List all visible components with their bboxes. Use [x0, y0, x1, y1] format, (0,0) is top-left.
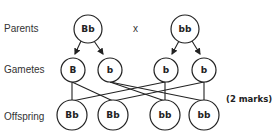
svg-text:b: b	[201, 65, 208, 75]
row-label-gametes: Gametes	[4, 64, 45, 75]
offspring-node-3: bb	[150, 100, 180, 130]
parent-node-2: bb	[171, 15, 199, 43]
svg-text:bb: bb	[198, 110, 211, 120]
gamete-node-1: B	[61, 58, 85, 82]
svg-text:bb: bb	[179, 24, 192, 34]
svg-text:Bb: Bb	[65, 110, 79, 120]
gamete-node-2: b	[98, 58, 122, 82]
cross-symbol: x	[133, 23, 138, 34]
svg-text:b: b	[107, 65, 114, 75]
arrow-parent1-gamete1	[75, 41, 81, 54]
row-label-offspring: Offspring	[4, 111, 44, 122]
parent-node-1: Bb	[74, 15, 102, 43]
arrow-parent2-gamete3	[172, 41, 179, 54]
svg-text:B: B	[70, 65, 77, 75]
gamete-node-4: b	[192, 58, 216, 82]
offspring-node-4: bb	[189, 100, 219, 130]
offspring-node-1: Bb	[57, 100, 87, 130]
arrow-parent1-gamete2	[94, 41, 103, 54]
offspring-node-2: Bb	[98, 100, 128, 130]
genetic-cross-diagram: Parents Gametes Offspring x Bb bb B b b …	[0, 0, 273, 133]
svg-text:Bb: Bb	[106, 110, 120, 120]
link-B-offspring2	[72, 82, 113, 101]
marks-label: (2 marks)	[226, 94, 272, 104]
row-label-parents: Parents	[4, 23, 38, 34]
svg-text:bb: bb	[159, 110, 172, 120]
gamete-node-3: b	[154, 58, 178, 82]
svg-text:Bb: Bb	[81, 24, 95, 34]
arrow-parent2-gamete4	[192, 41, 200, 54]
svg-text:b: b	[163, 65, 170, 75]
